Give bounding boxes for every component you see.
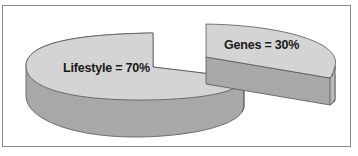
label-genes: Genes = 30% xyxy=(224,38,299,52)
pie-chart: Lifestyle = 70% Genes = 30% xyxy=(0,0,358,156)
label-lifestyle: Lifestyle = 70% xyxy=(63,61,150,75)
